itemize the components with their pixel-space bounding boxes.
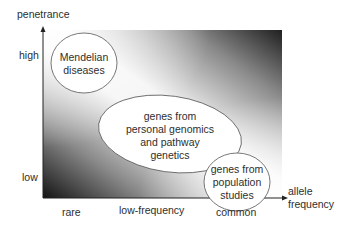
x-tick-low-frequency: low-frequency <box>119 204 184 217</box>
population-label-line3: studies <box>204 189 270 202</box>
population-label: genes from population studies <box>204 163 270 202</box>
y-axis-title: penetrance <box>17 8 70 21</box>
x-tick-common: common <box>216 206 256 219</box>
x-axis-title-line2: frequency <box>288 198 334 211</box>
x-tick-rare: rare <box>62 206 81 219</box>
y-tick-high: high <box>19 49 39 62</box>
personal-genomics-label-line3: and pathway <box>115 136 225 149</box>
personal-genomics-label: genes from personal genomics and pathway… <box>115 110 225 162</box>
personal-genomics-label-line2: personal genomics <box>115 123 225 136</box>
x-axis-title-line1: allele <box>288 185 313 198</box>
population-label-line1: genes from <box>204 163 270 176</box>
mendelian-label: Mendelian diseases <box>51 51 117 77</box>
population-label-line2: population <box>204 176 270 189</box>
y-tick-low: low <box>22 171 38 184</box>
arrow-up-icon <box>41 26 46 32</box>
mendelian-label-line2: diseases <box>51 64 117 77</box>
personal-genomics-label-line1: genes from <box>115 110 225 123</box>
mendelian-label-line1: Mendelian <box>51 51 117 64</box>
personal-genomics-label-line4: genetics <box>115 149 225 162</box>
